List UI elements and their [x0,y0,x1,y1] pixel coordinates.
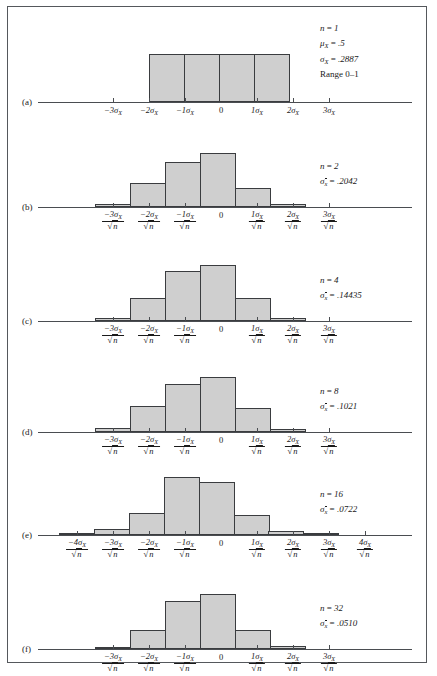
axis-tick [329,98,330,102]
histogram-bars [59,473,347,535]
histogram-bar [235,298,271,321]
annotation-line: σX = .2887 [320,52,359,67]
axis-tick [149,317,150,321]
axis-tick-label: 1σXn [249,210,265,231]
axis-tick-label: 2σX [287,105,299,116]
axis-tick [293,203,294,207]
axis-tick [257,428,258,432]
axis-tick-label: 3σX [323,105,335,116]
histogram-bar [130,630,166,649]
histogram-bar [200,265,236,321]
axis-tick [293,428,294,432]
panel-label-c: (c) [22,316,32,326]
histogram-bar [130,298,166,321]
axis-tick [293,531,294,535]
axis-tick [113,531,114,535]
axis-tick [293,645,294,649]
histogram-bars [149,54,293,102]
axis-line [38,649,412,650]
histogram-bar [130,183,166,207]
axis-tick-label: 2σXn [285,324,301,345]
axis-tick-label: −2σXn [138,324,160,345]
histogram-bar [165,384,201,432]
histogram-bar [235,188,271,207]
annotation-line: Range 0–1 [320,67,359,82]
axis-tick-label: 3σXn [321,538,337,559]
axis-tick [149,531,150,535]
axis-tick [329,203,330,207]
axis-tick-label: 0 [219,324,223,334]
axis-line [38,432,412,433]
annotation-line: n = 2 [320,159,357,174]
axis-tick-label: 3σXn [321,210,337,231]
panel-label-d: (d) [22,427,33,437]
panel-label-f: (f) [22,644,31,654]
annotation-line: σx = .14435 [320,288,362,303]
panel-label-b: (b) [22,202,33,212]
axis-tick [77,531,78,535]
axis-tick-label: 3σXn [321,324,337,345]
panel-f: (f)−3σXn−2σXn−1σXn01σXn2σXn3σXnn = 32σx … [8,569,426,669]
axis-tick [365,531,366,535]
axis-tick [185,428,186,432]
histogram-bar [270,204,306,207]
axis-tick [185,645,186,649]
histogram-bar [184,54,220,102]
panel-b: (b)−3σXn−2σXn−1σXn01σXn2σXn3σXnn = 2σx =… [8,120,426,234]
axis-tick-label: −2σXn [138,652,160,673]
axis-tick-label: 3σXn [321,652,337,673]
axis-tick-label: −1σXn [174,324,196,345]
axis-tick-label: 3σXn [321,435,337,456]
axis-tick-label: 2σXn [285,538,301,559]
annotation-line: n = 8 [320,384,357,399]
annotation-line: σx = .1021 [320,399,357,414]
axis-tick-label: 2σXn [285,652,301,673]
axis-tick [257,645,258,649]
panel-annotation: n = 1μX = .5σX = .2887Range 0–1 [320,21,359,83]
axis-tick-label: 1σX [251,105,263,116]
axis-tick [149,203,150,207]
annotation-line: σx = .0722 [320,502,357,517]
axis-tick [185,203,186,207]
annotation-line: n = 32 [320,601,357,616]
axis-tick-label: 0 [219,210,223,220]
histogram-bar [200,153,236,207]
axis-tick-label: −2σXn [138,538,160,559]
axis-tick [113,317,114,321]
axis-tick [257,531,258,535]
axis-tick [329,317,330,321]
axis-tick-label: −1σX [176,105,194,116]
panel-e: (e)−4σXn−3σXn−2σXn−1σXn01σXn2σXn3σXn4σXn… [8,459,426,567]
axis-tick-label: −3σXn [102,538,124,559]
panel-annotation: n = 32σx = .0510 [320,601,357,632]
axis-tick [329,645,330,649]
panel-label-a: (a) [22,97,32,107]
axis-tick [113,645,114,649]
axis-tick [293,317,294,321]
axis-tick [185,317,186,321]
panel-label-e: (e) [22,530,32,540]
annotation-line: n = 1 [320,21,359,36]
histogram-bar [165,162,201,207]
axis-tick-label: −1σXn [174,210,196,231]
histogram-bar [270,429,306,432]
axis-tick-label: 1σXn [249,652,265,673]
histogram-bar [270,318,306,321]
axis-tick-label: −3σXn [102,210,124,231]
axis-line [38,102,412,103]
axis-tick-label: −1σXn [174,435,196,456]
panel-d: (d)−3σXn−2σXn−1σXn01σXn2σXn3σXnn = 8σx =… [8,348,426,458]
panel-annotation: n = 4σx = .14435 [320,273,362,304]
axis-tick [185,98,186,102]
axis-tick-label: −1σXn [174,538,196,559]
histogram-bar [270,646,306,649]
axis-tick [149,428,150,432]
axis-tick-label: 4σXn [357,538,373,559]
axis-tick-label: 0 [219,435,223,445]
axis-line [38,207,412,208]
axis-tick-label: −3σXn [102,652,124,673]
panel-c: (c)−3σXn−2σXn−1σXn01σXn2σXn3σXnn = 4σx =… [8,235,426,347]
annotation-line: n = 4 [320,273,362,288]
axis-tick-label: −1σXn [174,652,196,673]
axis-tick [185,531,186,535]
